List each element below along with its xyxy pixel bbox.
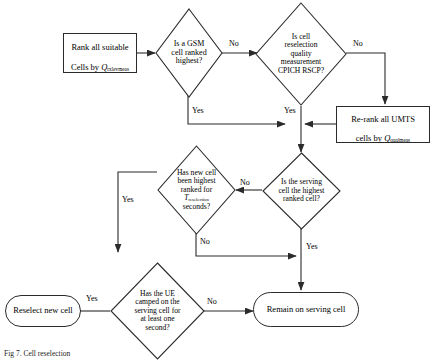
node-is-gsm-cell-ranked-highest-text: Is a GSM cell ranked highest? [155, 8, 223, 98]
node-re-rank-all-umts-cells: Re-rank all UMTS cells by Qqualmeas [336, 106, 430, 143]
rank-subscript: rxlevmeas [107, 66, 129, 72]
edge-cpich-no-to-rerank [346, 53, 385, 104]
rank-line-2-prefix: Cells by [71, 62, 101, 72]
edge-label-serving-yes: Yes [305, 243, 319, 251]
rerank-line-1: Re-rank all UMTS [351, 114, 415, 124]
node-remain-on-serving-cell-text: Remain on serving cell [264, 305, 349, 315]
node-remain-on-serving-cell: Remain on serving cell [253, 292, 359, 327]
node-is-serving-cell-highest-ranked-text: Is the serving cell the highest ranked c… [262, 152, 341, 230]
node-rank-all-suitable-cells: Rank all suitable Cells by Qrxlevmeas [63, 33, 137, 73]
edge-label-serving-no: No [239, 179, 251, 187]
newcell-line-5: seconds? [183, 203, 210, 211]
edge-newcell-yes-to-uecamped [118, 172, 157, 252]
node-is-gsm-cell-ranked-highest: Is a GSM cell ranked highest? [155, 8, 223, 98]
node-is-serving-cell-highest-ranked: Is the serving cell the highest ranked c… [262, 152, 341, 230]
edge-label-uecamped-yes: Yes [85, 295, 99, 303]
edge-label-newcell-no: No [199, 238, 211, 246]
flowchart-canvas: Rank all suitable Cells by Qrxlevmeas Is… [0, 0, 434, 362]
node-has-new-cell-been-highest-ranked-text: Has new cell been highest ranked for Tre… [157, 145, 236, 235]
edge-label-gsm-yes: Yes [191, 107, 205, 115]
node-is-cell-reselection-quality-cpich-rscp: Is cell reselection quality measurement … [255, 2, 347, 106]
node-has-ue-camped-one-second: Has the UE camped on the serving cell fo… [110, 262, 205, 360]
node-reselect-new-cell-text: Reselect new cell [10, 306, 75, 316]
node-reselect-new-cell: Reselect new cell [5, 295, 81, 327]
edge-label-cpich-yes: Yes [283, 107, 297, 115]
node-rank-all-suitable-cells-text: Rank all suitable Cells by Qrxlevmeas [68, 34, 132, 72]
node-has-new-cell-been-highest-ranked: Has new cell been highest ranked for Tre… [157, 145, 236, 235]
rerank-subscript: qualmeas [390, 137, 410, 143]
edge-label-newcell-yes: Yes [121, 196, 135, 204]
node-re-rank-all-umts-cells-text: Re-rank all UMTS cells by Qqualmeas [348, 105, 418, 143]
node-has-ue-camped-one-second-text: Has the UE camped on the serving cell fo… [110, 262, 205, 360]
newcell-subscript: reselection [188, 197, 208, 202]
rank-line-1: Rank all suitable [71, 42, 128, 52]
newcell-line-4: Treselection [184, 194, 209, 202]
rerank-line-2-prefix: cells by [356, 133, 384, 143]
node-is-cell-reselection-quality-cpich-rscp-text: Is cell reselection quality measurement … [255, 2, 347, 106]
edge-label-gsm-no: No [228, 40, 240, 48]
figure-caption: Fig 7. Cell reselection [4, 349, 70, 358]
edge-label-uecamped-no: No [206, 298, 218, 306]
edge-label-cpich-no: No [352, 40, 364, 48]
